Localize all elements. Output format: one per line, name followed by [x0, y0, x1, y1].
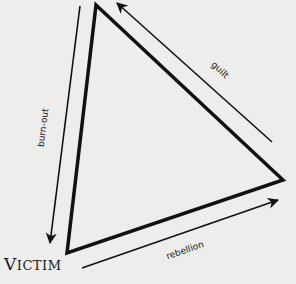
burn-out-arrow [50, 6, 80, 243]
burn-out-label: burn-out [36, 107, 51, 147]
guilt-arrow [117, 3, 272, 142]
rebellion-label: rebellion [165, 239, 205, 261]
triangle-shape [67, 5, 283, 253]
rebellion-arrow [82, 200, 278, 268]
victim-label: VICTIM [3, 254, 61, 274]
guilt-label: guilt [209, 59, 231, 80]
drama-triangle-diagram: burn-out guilt rebellion VICTIM [0, 0, 296, 284]
